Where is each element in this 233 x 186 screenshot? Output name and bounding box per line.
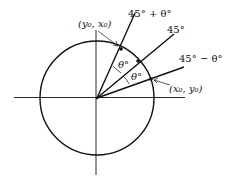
angle-arc-lower [123,76,129,84]
point-x0-y0 [149,77,153,81]
point-45 [136,59,140,63]
label-point-lower: (x₀, y₀) [169,83,203,94]
diagram-canvas: 45° + θ° 45° 45° − θ° θ° θ° (y₀, x₀) (x₀… [0,0,233,186]
leader-arrow-y0-x0 [98,31,118,46]
label-point-upper: (y₀, x₀) [78,18,112,29]
point-y0-x0 [119,47,123,51]
label-ray-upper: 45° + θ° [128,8,171,19]
origin-dot [96,97,99,100]
label-angle-upper: θ° [118,59,129,70]
label-ray-lower: 45° − θ° [179,53,222,64]
label-ray-middle: 45° [167,24,185,35]
label-angle-lower: θ° [131,71,142,82]
ray-45 [97,34,174,98]
